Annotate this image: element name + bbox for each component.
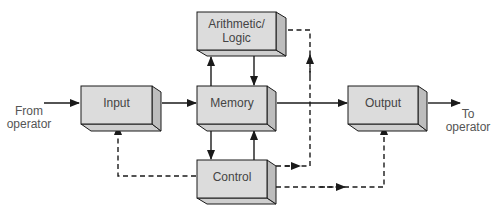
input-block: Input: [81, 86, 161, 131]
from-operator-line2: operator: [7, 117, 52, 131]
alu-label-line2: Logic: [222, 31, 251, 45]
alu-block: Arithmetic/ Logic: [197, 12, 286, 56]
alu-label-line1: Arithmetic/: [208, 17, 265, 31]
from-operator-line1: From: [15, 104, 43, 118]
to-operator-line2: operator: [446, 120, 491, 134]
from-operator-label: From operator: [7, 104, 52, 131]
to-operator-line1: To: [462, 107, 475, 121]
dashed-control-to-input: [118, 126, 196, 176]
to-operator-label: To operator: [446, 107, 491, 134]
output-block: Output: [348, 86, 427, 131]
control-label: Control: [213, 170, 252, 184]
block-diagram: Arithmetic/ Logic Input Memory Output Co…: [0, 0, 492, 205]
control-block: Control: [197, 160, 276, 204]
memory-block: Memory: [197, 86, 276, 131]
dashed-control-to-output: [276, 126, 384, 187]
output-label: Output: [365, 96, 402, 110]
memory-label: Memory: [210, 96, 253, 110]
input-label: Input: [103, 96, 130, 110]
